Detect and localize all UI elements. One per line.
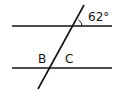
- parallel-lines-diagram: 62° B C: [0, 0, 118, 95]
- angle-label-c: C: [65, 52, 73, 66]
- angle-label-b: B: [38, 52, 46, 66]
- transversal-line: [38, 5, 84, 89]
- angle-arc-icon: [78, 20, 82, 26]
- angle-label-62: 62°: [88, 10, 109, 24]
